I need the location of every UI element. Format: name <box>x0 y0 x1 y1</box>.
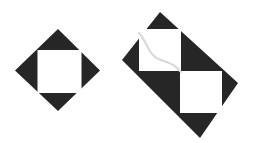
right-inner-square-lower-right <box>180 71 222 113</box>
figure-canvas <box>0 0 256 143</box>
geometric-figures-svg <box>0 0 256 143</box>
left-inner-square <box>38 50 82 93</box>
